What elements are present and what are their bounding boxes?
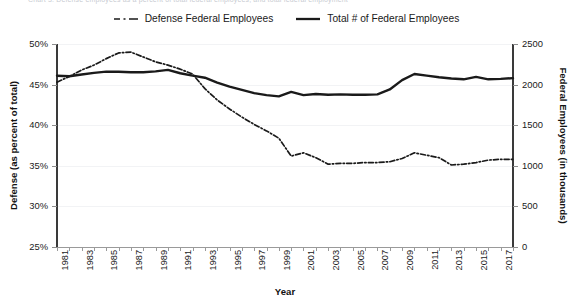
x-tick-label: 2013 — [455, 250, 464, 270]
right-axis-title: Federal Employees (in thousands) — [556, 44, 570, 247]
left-tick-label: 45% — [29, 80, 48, 89]
legend-label-defense: Defense Federal Employees — [145, 13, 274, 24]
x-tick-label: 1999 — [283, 250, 292, 270]
chart-container: Chart 3: Defense employees as a percent … — [0, 0, 572, 303]
solid-line-icon — [295, 14, 321, 24]
right-tick-label: 2000 — [522, 80, 543, 89]
x-tick-label: 2015 — [480, 250, 489, 270]
x-tick-label: 2005 — [357, 250, 366, 270]
x-tick-label: 1991 — [184, 250, 193, 270]
left-tick-label: 35% — [29, 161, 48, 170]
chart-legend: Defense Federal Employees Total # of Fed… — [0, 13, 572, 24]
x-axis-title: Year — [57, 286, 513, 297]
right-tick-mark — [513, 125, 518, 126]
left-tick-label: 50% — [29, 39, 48, 48]
left-tick-label: 25% — [29, 242, 48, 251]
right-tick-label: 1000 — [522, 161, 543, 170]
x-tick-label: 1985 — [110, 250, 119, 270]
x-tick-label: 1983 — [86, 250, 95, 270]
right-tick-label: 500 — [522, 202, 538, 211]
series-lines — [57, 44, 513, 247]
x-tick-label: 1997 — [258, 250, 267, 270]
x-tick-label: 2009 — [406, 250, 415, 270]
right-tick-label: 2500 — [522, 39, 543, 48]
x-tick-label: 1993 — [209, 250, 218, 270]
left-tick-label: 30% — [29, 202, 48, 211]
series-line-defense — [57, 52, 513, 165]
right-tick-mark — [513, 85, 518, 86]
x-tick-label: 2007 — [381, 250, 390, 270]
dash-dot-line-icon — [113, 14, 139, 24]
x-tick-label: 2017 — [505, 250, 514, 270]
x-axis-line — [57, 247, 513, 248]
legend-label-total: Total # of Federal Employees — [327, 13, 459, 24]
legend-item-defense: Defense Federal Employees — [113, 13, 274, 24]
legend-item-total: Total # of Federal Employees — [295, 13, 459, 24]
series-line-total — [57, 70, 513, 96]
right-tick-label: 0 — [522, 242, 527, 251]
right-tick-mark — [513, 206, 518, 207]
right-tick-mark — [513, 44, 518, 45]
x-tick-label: 2003 — [332, 250, 341, 270]
x-tick-label: 1989 — [160, 250, 169, 270]
x-tick-label: 2001 — [307, 250, 316, 270]
plot-area: 25%30%35%40%45%50% 05001000150020002500 — [57, 44, 513, 247]
right-tick-label: 1500 — [522, 120, 543, 129]
x-axis-labels: 1981198319851987198919911993199519971999… — [57, 250, 513, 284]
x-tick-label: 1995 — [234, 250, 243, 270]
x-tick-label: 1987 — [135, 250, 144, 270]
left-axis-title: Defense (as percent of total) — [6, 44, 20, 247]
right-tick-mark — [513, 166, 518, 167]
left-tick-label: 40% — [29, 120, 48, 129]
cut-off-caption: Chart 3: Defense employees as a percent … — [28, 0, 548, 4]
x-tick-label: 1981 — [61, 250, 70, 270]
x-tick-label: 2011 — [431, 250, 440, 270]
